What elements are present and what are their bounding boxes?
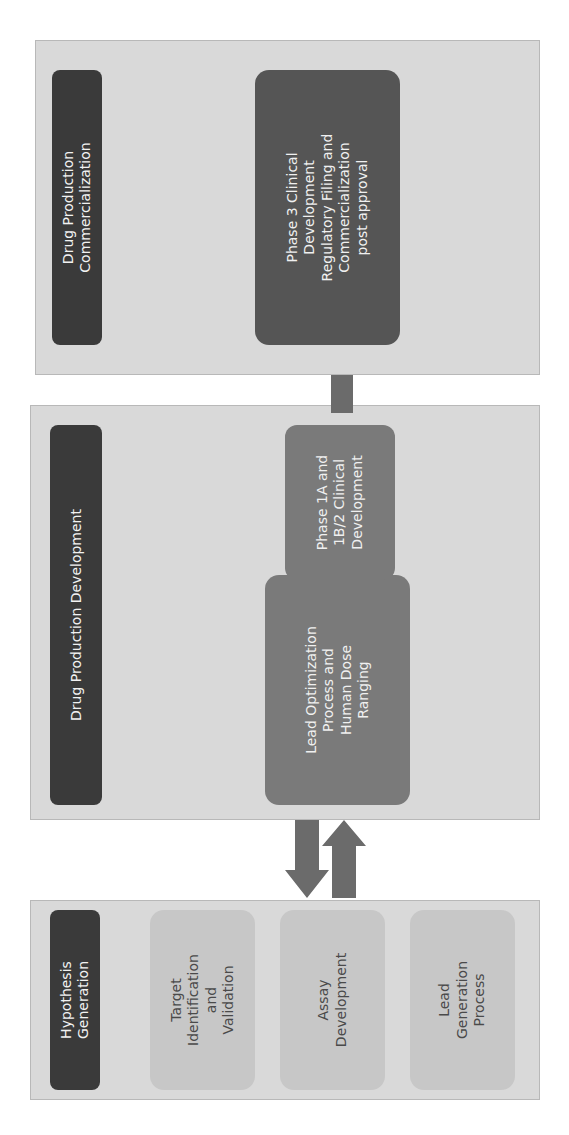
stage-header-hypothesis: Hypothesis Generation xyxy=(50,910,100,1090)
step-phase-1a-1b2: Phase 1A and 1B/2 Clinical Development xyxy=(285,425,395,580)
step-target-identification: Target Identification and Validation xyxy=(150,910,255,1090)
stage-header-commercialization: Drug Production Commercialization xyxy=(52,70,102,345)
diagram-canvas: Hypothesis Generation Target Identificat… xyxy=(0,0,569,1135)
step-assay-development: Assay Development xyxy=(280,910,385,1090)
step-phase-3-commercialization: Phase 3 Clinical Development Regulatory … xyxy=(255,70,400,345)
arrow-forward-icon xyxy=(322,820,366,898)
step-lead-generation: Lead Generation Process xyxy=(410,910,515,1090)
step-lead-optimization: Lead Optimization Process and Human Dose… xyxy=(265,575,410,805)
stage-header-development: Drug Production Development xyxy=(50,425,102,805)
